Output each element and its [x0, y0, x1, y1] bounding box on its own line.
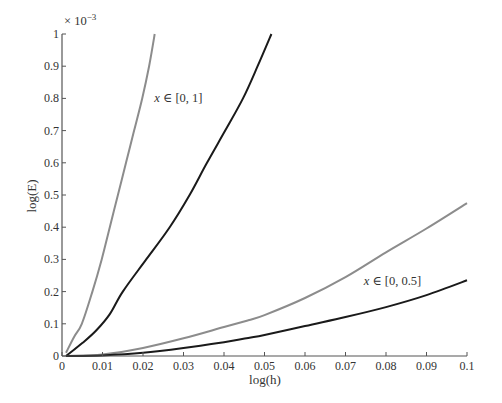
y-tick-label: 0.1: [44, 317, 59, 331]
x-tick-label: 0.02: [133, 359, 154, 373]
series-line: [66, 34, 155, 353]
y-tick-label: 0.8: [44, 91, 59, 105]
x-tick-label: 0: [59, 359, 65, 373]
x-tick-label: 0.03: [173, 359, 194, 373]
y-tick-label: 0.6: [44, 156, 59, 170]
x-axis-title: log(h): [249, 372, 281, 387]
y-axis-ticks: 00.10.20.30.40.50.60.70.80.91: [44, 27, 66, 363]
axes: 00.010.020.030.040.050.060.070.080.090.1…: [44, 27, 475, 373]
y-tick-label: 0.4: [44, 220, 59, 234]
y-tick-label: 0.2: [44, 285, 59, 299]
y-tick-label: 0.5: [44, 188, 59, 202]
x-tick-label: 0.05: [254, 359, 275, 373]
y-tick-label: 0.3: [44, 252, 59, 266]
y-tick-label: 0: [53, 349, 59, 363]
x-tick-label: 0.07: [335, 359, 356, 373]
x-tick-label: 0.09: [416, 359, 437, 373]
y-axis-title: log(E): [24, 179, 39, 212]
x-tick-label: 0.04: [214, 359, 235, 373]
x-tick-label: 0.08: [376, 359, 397, 373]
y-tick-label: 1: [53, 27, 59, 41]
curve-annotation: x ∈ [0, 0.5]: [363, 274, 422, 288]
y-tick-label: 0.7: [44, 124, 59, 138]
x-tick-label: 0.1: [460, 359, 475, 373]
x-tick-label: 0.01: [92, 359, 113, 373]
y-tick-label: 0.9: [44, 59, 59, 73]
plot-series: [66, 34, 467, 356]
line-chart: 00.010.020.030.040.050.060.070.080.090.1…: [0, 0, 502, 403]
x-tick-label: 0.06: [295, 359, 316, 373]
y-axis-multiplier: × 10−3: [64, 12, 97, 28]
curve-annotation: x ∈ [0, 1]: [153, 91, 202, 105]
series-line: [66, 280, 467, 356]
series-line: [66, 34, 271, 356]
